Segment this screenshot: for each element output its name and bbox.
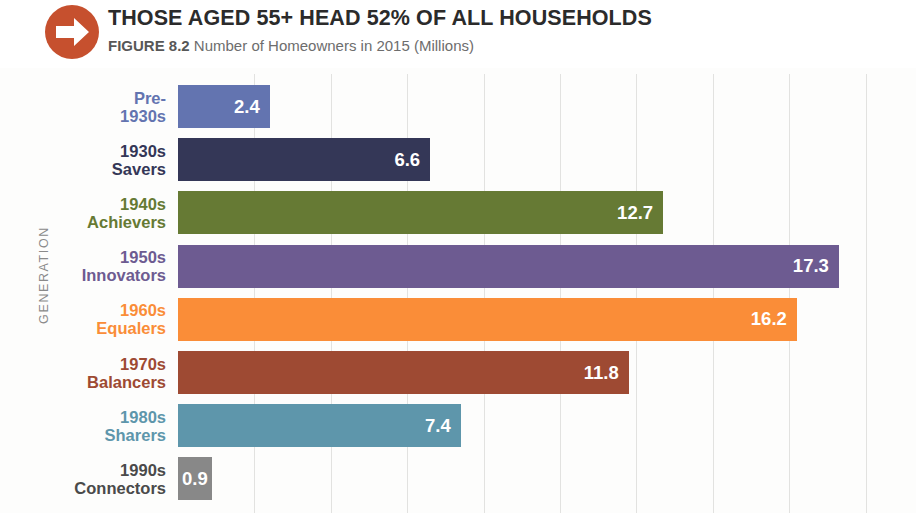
right-arrow-circle-icon bbox=[44, 4, 100, 60]
category-label: 1960s Equalers bbox=[0, 301, 166, 337]
bar-value-label: 12.7 bbox=[617, 202, 653, 224]
bar[interactable]: 2.4 bbox=[178, 85, 270, 128]
bar-row: 1970s Balancers11.8 bbox=[0, 351, 916, 394]
bar-value-label: 2.4 bbox=[234, 96, 260, 118]
bar-row: 1950s Innovators17.3 bbox=[0, 245, 916, 288]
bar[interactable]: 17.3 bbox=[178, 245, 839, 288]
bar-row: 1990s Connectors0.9 bbox=[0, 457, 916, 500]
bar-row: 1940s Achievers12.7 bbox=[0, 191, 916, 234]
chart-header: THOSE AGED 55+ HEAD 52% OF ALL HOUSEHOLD… bbox=[0, 0, 916, 68]
bar-row: 1930s Savers6.6 bbox=[0, 138, 916, 181]
bar[interactable]: 7.4 bbox=[178, 404, 461, 447]
category-label: 1940s Achievers bbox=[0, 195, 166, 231]
bar-value-label: 0.9 bbox=[182, 468, 208, 490]
bar-row: Pre- 1930s2.4 bbox=[0, 85, 916, 128]
bar-value-label: 7.4 bbox=[425, 415, 451, 437]
bar-row: 1960s Equalers16.2 bbox=[0, 298, 916, 341]
category-label: 1930s Savers bbox=[0, 142, 166, 178]
bar[interactable]: 6.6 bbox=[178, 138, 430, 181]
bar-row: 1980s Sharers7.4 bbox=[0, 404, 916, 447]
figure-caption: FIGURE 8.2 Number of Homeowners in 2015 … bbox=[108, 37, 474, 54]
bar[interactable]: 12.7 bbox=[178, 191, 663, 234]
category-label: 1950s Innovators bbox=[0, 248, 166, 284]
category-label: 1990s Connectors bbox=[0, 461, 166, 497]
category-label: Pre- 1930s bbox=[0, 89, 166, 125]
bar-chart: GENERATION Pre- 1930s2.41930s Savers6.61… bbox=[0, 68, 916, 513]
category-label: 1980s Sharers bbox=[0, 408, 166, 444]
category-label: 1970s Balancers bbox=[0, 355, 166, 391]
figure-number: FIGURE 8.2 bbox=[108, 37, 190, 54]
bar-value-label: 11.8 bbox=[584, 362, 619, 384]
figure-subtitle: Number of Homeowners in 2015 (Millions) bbox=[194, 37, 474, 54]
bar[interactable]: 0.9 bbox=[178, 457, 212, 500]
bar-value-label: 6.6 bbox=[394, 149, 420, 171]
bar-value-label: 16.2 bbox=[751, 308, 787, 330]
bar[interactable]: 16.2 bbox=[178, 298, 797, 341]
bar[interactable]: 11.8 bbox=[178, 351, 629, 394]
bar-value-label: 17.3 bbox=[793, 255, 829, 277]
bar-rows: Pre- 1930s2.41930s Savers6.61940s Achiev… bbox=[0, 68, 916, 513]
page-title: THOSE AGED 55+ HEAD 52% OF ALL HOUSEHOLD… bbox=[108, 6, 652, 31]
